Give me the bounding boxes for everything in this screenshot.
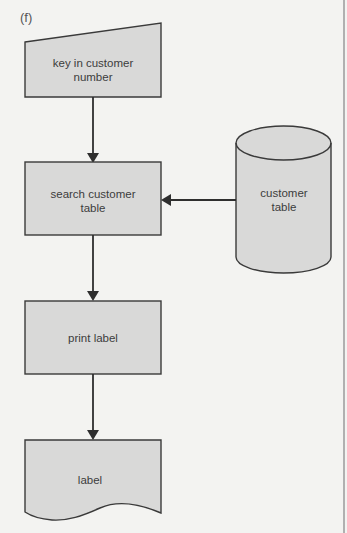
node-process-print: print label [25,301,161,374]
node-label: table [81,202,106,214]
node-label: key in customer [53,57,134,69]
panel-label: (f) [20,10,32,25]
node-label: table [272,201,297,213]
edge-input-to-search [87,97,99,163]
node-label: print label [68,332,118,344]
arrowhead-icon [87,430,99,440]
node-process-search: search customer table [25,162,161,235]
arrowhead-icon [87,291,99,301]
edge-search-to-print [87,235,99,301]
node-label: customer [260,187,307,199]
edge-db-to-search [161,194,236,206]
node-label: label [78,474,102,486]
arrowhead-icon [161,194,171,206]
node-label: search customer [50,188,135,200]
database-cylinder-shape [236,126,331,273]
node-database: customer table [236,126,331,273]
node-manual-input: key in customer number [25,23,161,97]
node-document: label [25,440,161,520]
edge-print-to-label [87,374,99,440]
flowchart: (f) key in customer number search custom… [0,0,347,533]
node-label: number [74,71,113,83]
